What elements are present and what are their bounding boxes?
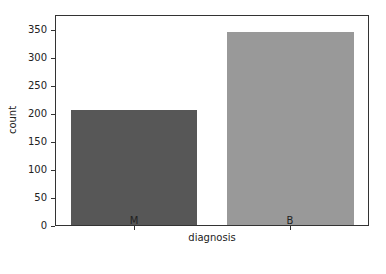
x-tick-B	[290, 226, 291, 230]
x-tick-label-M: M	[130, 215, 139, 226]
y-tick-100: 100	[51, 170, 55, 171]
y-tick-label: 350	[28, 25, 47, 35]
y-tick-350: 350	[51, 30, 55, 31]
y-tick-150: 150	[51, 142, 55, 143]
x-axis-label: diagnosis	[188, 232, 235, 243]
y-tick-0: 0	[51, 226, 55, 227]
y-tick-50: 50	[51, 198, 55, 199]
y-tick-200: 200	[51, 114, 55, 115]
y-tick-label: 100	[28, 165, 47, 175]
x-tick-M	[134, 226, 135, 230]
x-tick-label-B: B	[287, 215, 294, 226]
y-axis-label: count	[7, 106, 18, 134]
y-tick-label: 0	[41, 221, 47, 231]
bar-B	[227, 32, 354, 225]
y-tick-label: 300	[28, 53, 47, 63]
y-tick-label: 50	[34, 193, 47, 203]
y-tick-label: 200	[28, 109, 47, 119]
y-tick-label: 250	[28, 81, 47, 91]
plot-area: 0 50 100 150 200 250 300 350	[55, 15, 369, 226]
y-tick-250: 250	[51, 86, 55, 87]
bar-M	[71, 110, 197, 225]
y-tick-300: 300	[51, 58, 55, 59]
y-tick-label: 150	[28, 137, 47, 147]
